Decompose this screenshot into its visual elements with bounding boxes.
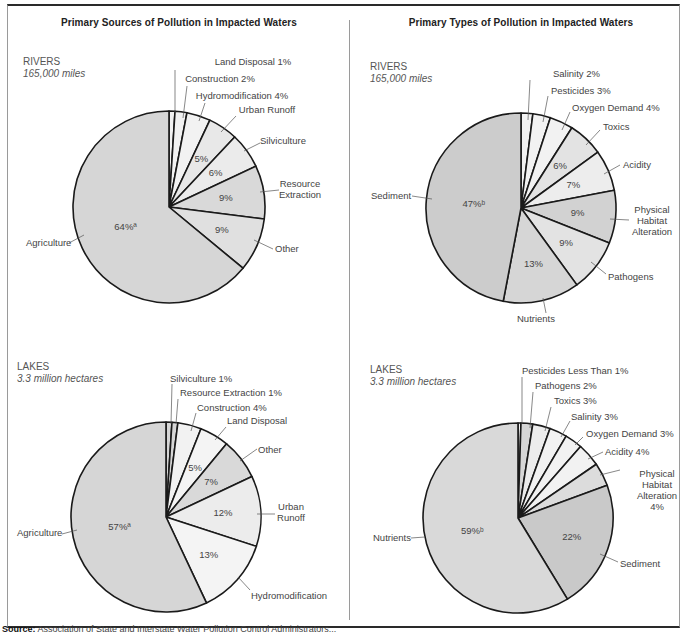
slice-value-label: 6% (553, 160, 567, 171)
leader-line (238, 577, 250, 590)
slice-value-label: 6% (209, 167, 223, 178)
slice-category-label: ResourceExtraction (279, 178, 321, 200)
slice-value-label: 64%ª (114, 221, 137, 232)
slice-value-label: 12% (213, 507, 233, 518)
slice-category-label: Toxics (603, 121, 630, 132)
leader-line (530, 392, 533, 428)
slice-category-label: Salinity 2% (553, 68, 601, 79)
leader-line (600, 470, 620, 475)
slice-value-label: 13% (199, 549, 219, 560)
leader-line (244, 143, 260, 151)
slice-value-label: 5% (195, 153, 209, 164)
slice-category-label: Oxygen Demand 3% (586, 428, 674, 439)
rivers-types-pie: 6%7%9%9%13%47%ᵇSalinity 2%Pesticides 3%O… (371, 68, 672, 324)
slice-category-label: Construction 2% (185, 73, 255, 84)
slice-category-label: Silviculture 1% (170, 373, 233, 384)
slice-category-label: Acidity 4% (605, 446, 650, 457)
source-note: Source: Association of State and Interst… (2, 624, 336, 633)
slice-category-label: UrbanRunoff (277, 501, 305, 523)
slice-category-label: Oxygen Demand 4% (572, 102, 660, 113)
slice-value-label: 5% (188, 462, 202, 473)
leader-line (171, 384, 172, 424)
lakes-types-pie: 22%59%ᵇPesticides Less Than 1%Pathogens … (373, 365, 677, 613)
slice-category-label: Pathogens (608, 271, 654, 282)
slice-value-label: 9% (571, 207, 585, 218)
slice-value-label: 9% (219, 192, 233, 203)
slice-category-label: Hydromodification (251, 590, 327, 601)
slice-value-label: 9% (559, 237, 573, 248)
slice-category-label: Hydromodification 4% (196, 90, 289, 101)
slice-category-label: Other (258, 444, 282, 455)
rivers-sources-pie: 5%6%9%9%64%ªLand Disposal 1%Construction… (26, 56, 321, 303)
slice-category-label: Pathogens 2% (535, 380, 597, 391)
slice-category-label: PhysicalHabitatAlteration4% (637, 468, 677, 512)
slice-category-label: Pesticides Less Than 1% (522, 365, 629, 376)
slice-category-label: Other (275, 243, 299, 254)
slice-category-label: Sediment (371, 190, 411, 201)
slice-category-label: Pesticides 3% (551, 85, 611, 96)
slice-category-label: Land Disposal (227, 415, 287, 426)
slice-value-label: 9% (215, 224, 229, 235)
lakes-sources-pie: 5%7%12%13%57%ªSilviculture 1%Resource Ex… (17, 373, 327, 612)
slice-category-label: Acidity (623, 159, 651, 170)
leader-line (586, 130, 600, 145)
slice-value-label: 59%ᵇ (461, 525, 484, 536)
pie-charts: 5%6%9%9%64%ªLand Disposal 1%Construction… (0, 0, 686, 633)
slice-category-label: Salinity 3% (571, 411, 619, 422)
slice-category-label: Agriculture (17, 527, 62, 538)
leader-line (176, 399, 178, 424)
slice-category-label: PhysicalHabitatAlteration (632, 204, 672, 237)
slice-value-label: 57%ª (108, 521, 131, 532)
slice-category-label: Urban Runoff (239, 104, 296, 115)
slice-value-label: 7% (566, 179, 580, 190)
slice-value-label: 13% (524, 258, 544, 269)
leader-line (221, 116, 236, 132)
leader-line (240, 449, 257, 461)
leader-line (575, 437, 583, 445)
slice-value-label: 7% (204, 476, 218, 487)
slice-category-label: Sediment (620, 558, 660, 569)
slice-category-label: Agriculture (26, 237, 71, 248)
slice-value-label: 47%ᵇ (462, 198, 485, 209)
leader-line (215, 427, 226, 440)
source-label: Source: (2, 624, 36, 633)
slice-category-label: Silviculture (260, 135, 306, 146)
slice-category-label: Land Disposal 1% (215, 56, 292, 67)
source-text: Association of State and Interstate Wate… (38, 624, 337, 633)
slice-value-label: 22% (562, 531, 582, 542)
slice-category-label: Toxics 3% (554, 395, 597, 406)
slice-category-label: Resource Extraction 1% (180, 387, 282, 398)
slice-category-label: Construction 4% (197, 402, 267, 413)
slice-category-label: Nutrients (373, 532, 411, 543)
slice-category-label: Nutrients (517, 313, 555, 324)
leader-line (411, 537, 425, 538)
leader-line (561, 421, 570, 437)
